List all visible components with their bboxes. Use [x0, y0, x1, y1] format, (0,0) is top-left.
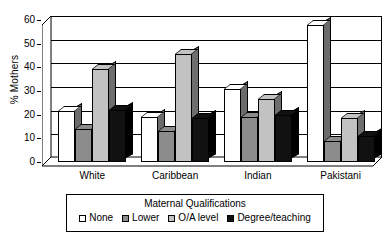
legend-item-label: None	[89, 212, 113, 224]
bar-side-face	[209, 110, 216, 158]
bar-indian-oa-level	[258, 99, 275, 162]
y-tick-mark	[37, 20, 41, 21]
bar-pakistani-lower	[324, 141, 341, 162]
y-tick-label: 10	[9, 133, 35, 143]
y-axis-title: % Mothers	[9, 40, 20, 120]
bar-front-face	[341, 118, 358, 162]
bar-chart: % Mothers 0102030405060 WhiteCaribbeanIn…	[0, 0, 392, 237]
plot-area	[42, 16, 382, 166]
y-tick-mark	[37, 91, 41, 92]
bar-front-face	[109, 110, 126, 162]
bar-pakistani-oa-level	[341, 118, 358, 162]
bar-white-oa-level	[92, 69, 109, 162]
y-tick-label: 60	[9, 15, 35, 25]
y-tick-mark	[37, 162, 41, 163]
legend-item-label: O/A level	[178, 212, 218, 224]
swatch-none-icon	[79, 215, 86, 222]
y-tick-mark	[37, 138, 41, 139]
y-tick-label: 50	[9, 39, 35, 49]
category-label-indian: Indian	[214, 170, 302, 181]
bar-front-face	[275, 115, 292, 162]
category-label-caribbean: Caribbean	[131, 170, 219, 181]
bar-front-face	[58, 111, 75, 162]
legend-item-label: Lower	[132, 212, 159, 224]
y-tick-mark	[37, 67, 41, 68]
bar-front-face	[92, 69, 109, 162]
legend-item-label: Degree/teaching	[237, 212, 310, 224]
legend-items: NoneLowerO/A levelDegree/teaching	[67, 212, 323, 224]
legend-item-none: None	[79, 212, 113, 224]
legend-item-degree-teaching: Degree/teaching	[227, 212, 310, 224]
bar-side-face	[126, 102, 133, 158]
bar-indian-lower	[241, 117, 258, 162]
bar-white-degree-teaching	[109, 110, 126, 162]
bar-front-face	[224, 89, 241, 162]
legend-title: Maternal Qualifications	[67, 198, 323, 210]
bar-caribbean-degree-teaching	[192, 118, 209, 162]
bar-caribbean-lower	[158, 131, 175, 162]
bar-pakistani-degree-teaching	[358, 136, 375, 162]
category-label-pakistani: Pakistani	[297, 170, 385, 181]
bar-front-face	[307, 25, 324, 162]
bar-front-face	[75, 129, 92, 162]
bar-pakistani-none	[307, 25, 324, 162]
bar-side-face	[292, 107, 299, 158]
bar-front-face	[141, 117, 158, 162]
y-tick-label: 20	[9, 110, 35, 120]
bar-indian-none	[224, 89, 241, 162]
swatch-lower-icon	[122, 215, 129, 222]
bar-white-lower	[75, 129, 92, 162]
bar-white-none	[58, 111, 75, 162]
bar-front-face	[192, 118, 209, 162]
bar-front-face	[241, 117, 258, 162]
bar-front-face	[175, 54, 192, 162]
category-label-white: White	[48, 170, 136, 181]
y-tick-label: 0	[9, 157, 35, 167]
bar-indian-degree-teaching	[275, 115, 292, 162]
y-tick-mark	[37, 115, 41, 116]
bar-caribbean-oa-level	[175, 54, 192, 162]
bar-front-face	[158, 131, 175, 162]
legend: Maternal Qualifications NoneLowerO/A lev…	[66, 194, 324, 232]
bars-layer	[42, 16, 382, 166]
bar-front-face	[324, 141, 341, 162]
y-tick-label: 40	[9, 62, 35, 72]
swatch-degree-icon	[227, 215, 234, 222]
y-tick-mark	[37, 44, 41, 45]
legend-item-oa-level: O/A level	[168, 212, 218, 224]
bar-front-face	[258, 99, 275, 162]
bar-front-face	[358, 136, 375, 162]
y-tick-label: 30	[9, 86, 35, 96]
bar-caribbean-none	[141, 117, 158, 162]
swatch-oa-icon	[168, 215, 175, 222]
legend-item-lower: Lower	[122, 212, 159, 224]
